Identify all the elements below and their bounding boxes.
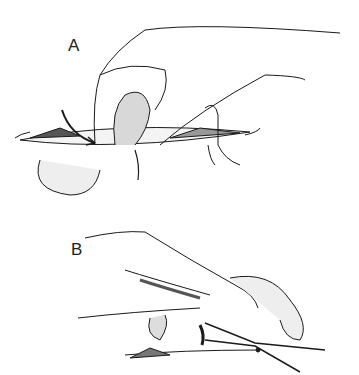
illustration-a	[0, 0, 359, 200]
panel-a: A	[0, 0, 359, 200]
illustration-b	[0, 200, 359, 375]
panel-b: B	[0, 200, 359, 375]
